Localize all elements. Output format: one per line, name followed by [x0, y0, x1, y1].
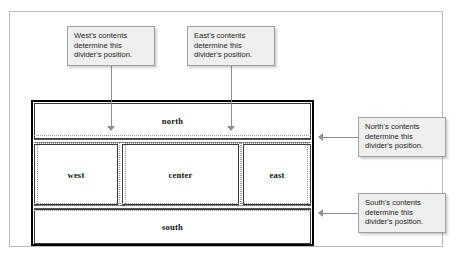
region-east-label: east — [270, 170, 285, 180]
outer-frame: north west center east south West's cont — [9, 11, 443, 247]
border-layout-diagram: north west center east south — [31, 100, 314, 246]
divider-south[interactable] — [34, 205, 311, 209]
callout-west: West's contents determine this divider's… — [67, 26, 155, 66]
arrow-down-icon-east — [227, 126, 235, 131]
arrow-down-icon-west — [107, 126, 115, 131]
leader-line-south — [322, 213, 358, 214]
divider-north[interactable] — [34, 139, 311, 143]
arrow-left-icon-south — [318, 209, 323, 217]
callout-south: South's contents determine this divider'… — [358, 193, 446, 233]
leader-line-west — [111, 66, 112, 129]
callout-east: East's contents determine this divider's… — [187, 26, 275, 66]
region-center[interactable]: center — [122, 144, 239, 205]
leader-line-east — [231, 66, 232, 129]
region-north-label: north — [162, 116, 183, 126]
region-center-label: center — [169, 170, 193, 180]
region-south-label: south — [162, 222, 183, 232]
region-west[interactable]: west — [34, 144, 118, 205]
region-north[interactable]: north — [34, 103, 311, 139]
region-east[interactable]: east — [243, 144, 311, 205]
arrow-left-icon-north — [318, 133, 323, 141]
leader-line-north — [322, 137, 358, 138]
region-south[interactable]: south — [34, 209, 311, 244]
callout-north: North's contents determine this divider'… — [358, 117, 446, 157]
region-west-label: west — [68, 170, 85, 180]
